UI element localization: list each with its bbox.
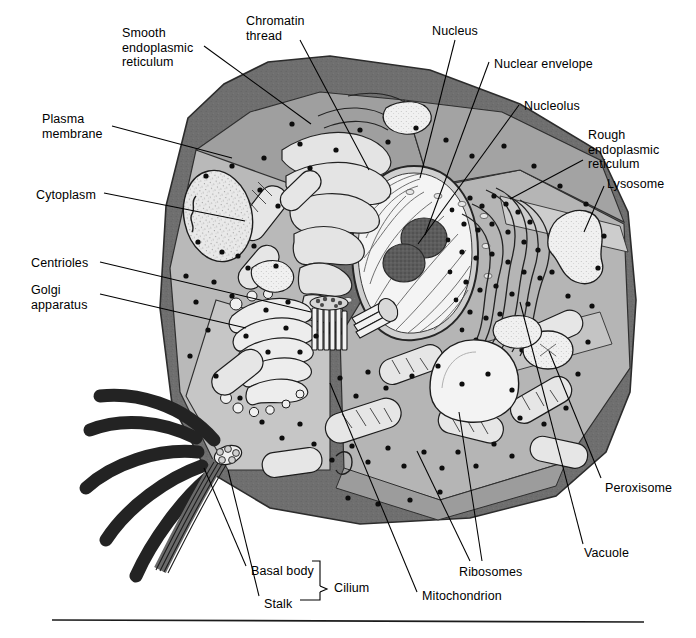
label-rough-er: Rough endoplasmic reticulum xyxy=(588,128,659,172)
label-nucleolus: Nucleolus xyxy=(524,99,580,114)
label-plasma-membrane: Plasma membrane xyxy=(42,112,103,141)
vacuole xyxy=(430,340,519,422)
label-nuclear-envelope: Nuclear envelope xyxy=(494,57,593,72)
label-peroxisome: Peroxisome xyxy=(605,481,672,496)
cilia xyxy=(86,395,214,576)
label-lysosome: Lysosome xyxy=(607,177,664,192)
cell-illustration xyxy=(0,0,696,638)
label-basal-body: Basal body xyxy=(251,564,314,579)
label-ribosomes: Ribosomes xyxy=(459,565,522,580)
label-stalk: Stalk xyxy=(264,597,292,612)
label-mitochondrion: Mitochondrion xyxy=(422,589,502,604)
cell-diagram-figure: Smooth endoplasmic reticulum Chromatin t… xyxy=(0,0,696,638)
label-cytoplasm: Cytoplasm xyxy=(36,188,96,203)
bottom-rule-line xyxy=(52,620,644,622)
label-smooth-er: Smooth endoplasmic reticulum xyxy=(122,26,193,70)
label-nucleus: Nucleus xyxy=(432,24,478,39)
nucleolus xyxy=(383,244,425,282)
label-centrioles: Centrioles xyxy=(31,256,88,271)
label-vacuole: Vacuole xyxy=(584,546,629,561)
label-cilium: Cilium xyxy=(334,581,369,596)
label-golgi-apparatus: Golgi apparatus xyxy=(31,283,88,312)
label-chromatin-thread: Chromatin thread xyxy=(246,14,305,43)
